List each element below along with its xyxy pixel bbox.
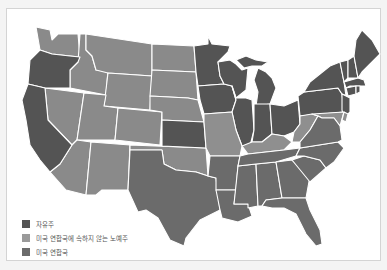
legend-item-confederate-states: 미국 연합국 [22, 246, 128, 258]
state-north-dakota [152, 44, 196, 72]
state-connecticut [346, 86, 356, 96]
state-maine [354, 30, 380, 78]
state-montana [86, 34, 152, 76]
state-mississippi [234, 164, 258, 208]
legend-item-border-slave-states: 미국 연합국에 속하지 않는 노예주 [22, 232, 128, 244]
legend-label: 미국 연합국 [36, 247, 68, 257]
legend-swatch-border [22, 234, 30, 242]
state-south-dakota [150, 70, 198, 100]
state-kansas [162, 120, 206, 148]
state-florida [262, 198, 322, 246]
state-rhode-island [356, 86, 360, 94]
state-wyoming [104, 73, 152, 110]
state-colorado [115, 108, 162, 145]
legend-label: 자유주 [36, 219, 54, 229]
state-iowa [198, 84, 236, 114]
legend-swatch-free [22, 220, 30, 228]
territories [36, 27, 208, 195]
map-legend: 자유주 미국 연합국에 속하지 않는 노예주 미국 연합국 [22, 218, 128, 260]
state-new-mexico [86, 142, 130, 195]
legend-swatch-confederate [22, 248, 30, 256]
legend-label: 미국 연합국에 속하지 않는 노예주 [36, 233, 128, 243]
legend-item-free-states: 자유주 [22, 218, 128, 230]
